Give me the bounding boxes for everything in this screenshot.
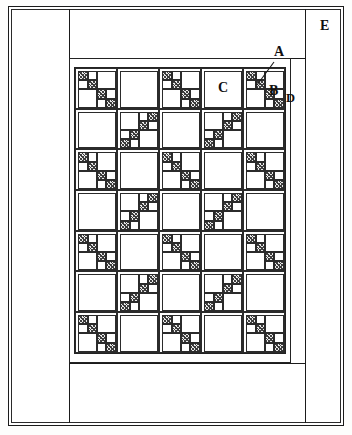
- textured-patch: [148, 193, 157, 202]
- textured-patch: [97, 252, 106, 261]
- quilt-block: [159, 190, 201, 231]
- textured-patch: [214, 293, 223, 302]
- plain-patch: [204, 130, 213, 139]
- textured-patch: [130, 130, 139, 139]
- textured-patch: [106, 343, 115, 352]
- label-E: E: [320, 19, 329, 33]
- textured-patch: [162, 234, 171, 243]
- plain-patch: [148, 284, 157, 293]
- plain-patch: [97, 99, 106, 108]
- textured-patch: [97, 89, 106, 98]
- quilt-block: [201, 231, 243, 272]
- textured-patch: [181, 89, 190, 98]
- textured-patch: [232, 274, 241, 283]
- textured-patch: [181, 333, 190, 342]
- plain-patch: [120, 274, 139, 292]
- plain-patch: [265, 261, 274, 270]
- quilt-block: [159, 109, 201, 150]
- plain-patch: [78, 112, 116, 149]
- label-D: D: [286, 92, 295, 105]
- quilt-block: [243, 190, 285, 231]
- plain-patch: [162, 171, 181, 189]
- plain-patch: [97, 71, 116, 89]
- textured-patch: [97, 333, 106, 342]
- plain-patch: [78, 333, 97, 351]
- plain-patch: [204, 211, 213, 220]
- plain-patch: [139, 193, 148, 202]
- quilt-block: [117, 231, 159, 272]
- plain-patch: [88, 315, 97, 324]
- plain-patch: [246, 171, 265, 189]
- textured-patch: [274, 180, 283, 189]
- plain-patch: [190, 171, 199, 180]
- plain-patch: [256, 71, 265, 80]
- quilt-block: [117, 149, 159, 190]
- textured-patch: [139, 284, 148, 293]
- textured-patch: [274, 261, 283, 270]
- plain-patch: [162, 243, 171, 252]
- textured-patch: [162, 152, 171, 161]
- quilt-block: [117, 312, 159, 353]
- plain-patch: [204, 315, 242, 352]
- textured-patch: [265, 333, 274, 342]
- plain-patch: [162, 333, 181, 351]
- textured-patch: [148, 274, 157, 283]
- plain-patch: [214, 139, 223, 148]
- textured-patch: [232, 112, 241, 121]
- plain-patch: [120, 152, 158, 189]
- textured-patch: [246, 71, 255, 80]
- textured-patch: [256, 162, 265, 171]
- plain-patch: [120, 211, 129, 220]
- textured-patch: [223, 284, 232, 293]
- plain-patch: [246, 324, 255, 333]
- quilt-block: [159, 68, 201, 109]
- drawing-sheet: A B C D E: [0, 0, 352, 435]
- textured-patch: [274, 343, 283, 352]
- plain-patch: [246, 193, 284, 230]
- plain-patch: [204, 152, 242, 189]
- plain-patch: [78, 171, 97, 189]
- plain-patch: [139, 130, 158, 148]
- plain-patch: [172, 152, 181, 161]
- textured-patch: [232, 193, 241, 202]
- plain-patch: [120, 112, 139, 130]
- plain-patch: [120, 234, 158, 271]
- plain-patch: [97, 234, 116, 252]
- plain-patch: [246, 252, 265, 270]
- plain-patch: [214, 302, 223, 311]
- quilt-block: [75, 190, 117, 231]
- plain-patch: [223, 193, 232, 202]
- quilt-block: [243, 312, 285, 353]
- plain-patch: [232, 202, 241, 211]
- plain-patch: [130, 139, 139, 148]
- quilt-block: [243, 231, 285, 272]
- plain-patch: [190, 333, 199, 342]
- plain-patch: [232, 121, 241, 130]
- plain-patch: [162, 80, 171, 89]
- quilt-block: [243, 271, 285, 312]
- plain-patch: [162, 324, 171, 333]
- textured-patch: [204, 302, 213, 311]
- plain-patch: [97, 261, 106, 270]
- plain-patch: [106, 89, 115, 98]
- plain-patch: [78, 274, 116, 311]
- textured-patch: [181, 252, 190, 261]
- plain-patch: [139, 112, 148, 121]
- textured-patch: [88, 80, 97, 89]
- plain-patch: [162, 252, 181, 270]
- plain-patch: [223, 130, 242, 148]
- plain-patch: [78, 252, 97, 270]
- plain-patch: [172, 315, 181, 324]
- plain-patch: [246, 112, 284, 149]
- plain-patch: [265, 234, 284, 252]
- frame-horizontal-bottom: [69, 363, 305, 364]
- plain-patch: [78, 193, 116, 230]
- plain-patch: [274, 333, 283, 342]
- quilt-block: [201, 271, 243, 312]
- plain-patch: [181, 343, 190, 352]
- quilt-block: [75, 312, 117, 353]
- textured-patch: [223, 202, 232, 211]
- textured-patch: [265, 252, 274, 261]
- plain-patch: [88, 152, 97, 161]
- textured-patch: [78, 71, 87, 80]
